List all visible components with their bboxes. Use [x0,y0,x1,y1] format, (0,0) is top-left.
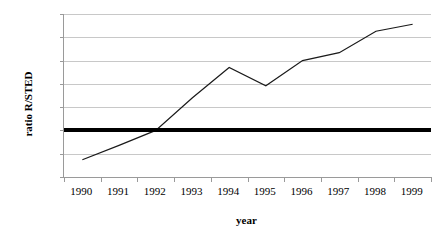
x-axis-tick-mark [321,177,322,182]
x-axis-tick-mark [174,177,175,182]
line-chart: ratio R/STED 050100150200250300350 19901… [0,0,446,242]
x-axis-tick-mark [248,177,249,182]
plot-area: 050100150200250300350 [63,14,431,178]
x-axis-tick-mark [211,177,212,182]
reference-100 [64,128,431,132]
x-axis-tick-mark [394,177,395,182]
x-axis-title: year [63,214,430,226]
y-axis-title: ratio R/STED [22,24,34,184]
x-axis-tick-mark [284,177,285,182]
series-polyline [82,24,412,160]
x-axis-tick-mark [64,177,65,182]
x-axis-tick-label: 1999 [387,186,437,197]
x-axis-tick-mark [358,177,359,182]
series-line-ratio [64,14,431,177]
x-axis-tick-mark [431,177,432,182]
x-axis-tick-mark [137,177,138,182]
x-axis-tick-mark [101,177,102,182]
